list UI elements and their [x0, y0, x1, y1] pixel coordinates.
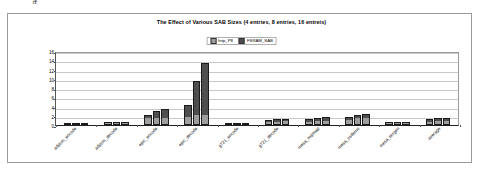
legend-label-intp-p8: Intp_P8 — [218, 38, 233, 43]
bar — [362, 114, 370, 125]
bar — [314, 118, 322, 125]
bar-segment-intp-p8 — [202, 115, 208, 124]
bar — [144, 115, 152, 125]
bar-segment-intp-p8 — [363, 118, 369, 124]
bar — [193, 81, 201, 125]
x-axis-tick-label: mesa_osdemo — [337, 126, 361, 150]
x-axis-tick-label: epic_decode — [178, 126, 199, 147]
bar-segment-intp-p8 — [355, 118, 361, 124]
bar-group — [297, 53, 337, 125]
x-axis-tick-label: g721_encode — [217, 126, 239, 148]
bar-segment-intp-p8 — [444, 121, 450, 124]
x-axis-tick-mark — [460, 125, 461, 127]
bar-segment-intp-p8 — [194, 115, 200, 124]
legend-item-fsram-sab: FSRAM_SAB — [239, 38, 273, 44]
chart-legend: Intp_P8 FSRAM_SAB — [206, 37, 277, 45]
x-axis-tick-label: mesa_mipmap — [296, 126, 320, 150]
x-axis-tick-label: g721_decode — [257, 126, 279, 148]
bar — [322, 117, 330, 125]
bar-segment-fsram-sab — [162, 110, 168, 117]
bar-segment-intp-p8 — [154, 118, 160, 124]
bar — [161, 109, 169, 125]
bar — [443, 118, 451, 125]
bar-group — [177, 53, 217, 125]
bar — [354, 115, 362, 125]
bar-segment-intp-p8 — [122, 123, 128, 124]
chart-title: The Effect of Various SAB Sizes (4 entri… — [0, 18, 483, 26]
x-axis-tick-label: average — [427, 126, 442, 141]
bar-segment-intp-p8 — [315, 121, 321, 124]
x-axis-tick-label: mesa_texgen — [379, 126, 401, 148]
x-axis-tick-label: epic_encode — [137, 126, 158, 147]
bar-segment-intp-p8 — [386, 123, 392, 124]
bar-group — [418, 53, 458, 125]
bar-segment-intp-p8 — [283, 121, 289, 124]
bar-group — [257, 53, 297, 125]
bar-segment-intp-p8 — [266, 122, 272, 124]
bar — [201, 63, 209, 125]
x-axis-tick-label: adpcm_decode — [93, 126, 118, 151]
bar-segment-intp-p8 — [346, 120, 352, 124]
bar-segment-intp-p8 — [274, 122, 280, 124]
x-axis-labels: adpcm_encodeadpcm_decodeepic_encodeepic_… — [55, 126, 459, 172]
x-axis-tick-label: adpcm_encode — [53, 126, 78, 151]
bar-segment-intp-p8 — [185, 117, 191, 124]
plot-area: Relative Speedup (%) 0246810121416 — [55, 52, 459, 126]
bar-segment-fsram-sab — [202, 64, 208, 115]
bar-group — [217, 53, 257, 125]
bar-group — [96, 53, 136, 125]
legend-swatch-intp-p8 — [210, 38, 216, 44]
bar-segment-intp-p8 — [145, 118, 151, 124]
legend-swatch-fsram-sab — [239, 38, 245, 44]
bar-group — [337, 53, 377, 125]
bar-segment-fsram-sab — [194, 82, 200, 116]
bar-segment-intp-p8 — [323, 121, 329, 124]
bar-segment-intp-p8 — [306, 122, 312, 124]
bar-segment-fsram-sab — [185, 106, 191, 118]
bar-segment-intp-p8 — [114, 123, 120, 124]
bar-group — [136, 53, 176, 125]
legend-label-fsram-sab: FSRAM_SAB — [247, 38, 273, 43]
bar-series-container — [56, 53, 458, 125]
bar-segment-intp-p8 — [105, 123, 111, 124]
bar-segment-intp-p8 — [435, 121, 441, 124]
bar-segment-intp-p8 — [395, 123, 401, 124]
bar — [434, 118, 442, 125]
bar-group — [56, 53, 96, 125]
bar — [345, 117, 353, 125]
legend-item-intp-p8: Intp_P8 — [210, 38, 233, 44]
bar-segment-intp-p8 — [162, 118, 168, 124]
y-axis-label: Relative Speedup (%) — [32, 0, 38, 35]
chart-figure: The Effect of Various SAB Sizes (4 entri… — [0, 0, 483, 177]
bar-segment-intp-p8 — [427, 122, 433, 124]
bar — [184, 105, 192, 125]
bar-segment-intp-p8 — [403, 123, 409, 124]
bar — [153, 111, 161, 125]
bar-group — [378, 53, 418, 125]
